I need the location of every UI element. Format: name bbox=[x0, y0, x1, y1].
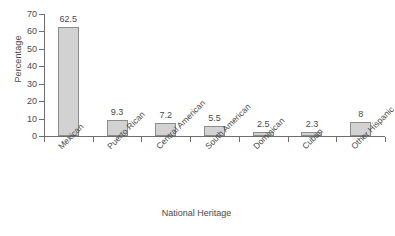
x-axis-tick-mark bbox=[141, 137, 142, 142]
y-axis-tick-label: 10 bbox=[13, 115, 37, 124]
y-axis-tick-label: 70 bbox=[13, 10, 37, 19]
y-axis-tick-label: 50 bbox=[13, 45, 37, 54]
x-axis-category-label: Cuban bbox=[300, 126, 325, 151]
x-axis-tick-mark bbox=[288, 137, 289, 142]
y-axis-tick-mark bbox=[39, 14, 44, 15]
y-axis-tick-label: 60 bbox=[13, 27, 37, 36]
y-axis-tick-mark bbox=[39, 119, 44, 120]
y-axis-tick-label: 40 bbox=[13, 62, 37, 71]
bar-value-label: 2.3 bbox=[292, 120, 332, 129]
bar-value-label: 62.5 bbox=[48, 15, 88, 24]
y-axis-tick-mark bbox=[39, 101, 44, 102]
y-axis-tick-mark bbox=[39, 66, 44, 67]
y-axis-tick-label: 20 bbox=[13, 97, 37, 106]
y-axis-tick-label: 0 bbox=[13, 132, 37, 141]
x-axis-tick-mark bbox=[44, 137, 45, 142]
y-axis-tick-mark bbox=[39, 49, 44, 50]
x-axis-tick-mark bbox=[239, 137, 240, 142]
bar-value-label: 9.3 bbox=[97, 108, 137, 117]
x-axis-tick-mark bbox=[385, 137, 386, 142]
x-axis-title: National Heritage bbox=[0, 208, 393, 218]
x-axis-tick-mark bbox=[190, 137, 191, 142]
x-axis-tick-mark bbox=[336, 137, 337, 142]
y-axis-line bbox=[44, 14, 45, 137]
x-axis-tick-mark bbox=[93, 137, 94, 142]
y-axis-tick-mark bbox=[39, 31, 44, 32]
y-axis-tick-mark bbox=[39, 84, 44, 85]
y-axis-tick-label: 30 bbox=[13, 80, 37, 89]
bar bbox=[58, 27, 79, 136]
